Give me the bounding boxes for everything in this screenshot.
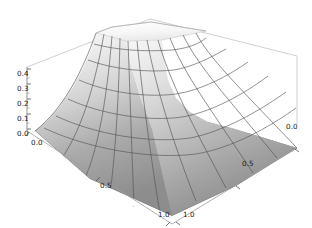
- x-tick-label-1.0: 1.0: [158, 211, 170, 218]
- y-tick-label-0.0: 0.0: [286, 123, 298, 130]
- x-tick-label-0.0: 0.0: [31, 139, 43, 146]
- z-tick-label-0.2: 0.2: [17, 100, 29, 107]
- plot-canvas: [0, 0, 312, 228]
- z-tick-label-0.4: 0.4: [17, 70, 29, 77]
- surface-mesh-3d: [35, 22, 297, 216]
- y-tick-label-0.5: 0.5: [242, 160, 254, 167]
- y-tick-label-1.0: 1.0: [183, 211, 195, 218]
- z-tick-label-0.3: 0.3: [17, 85, 29, 92]
- z-tick-label-0.1: 0.1: [17, 115, 29, 122]
- z-tick-label-0.0: 0.0: [17, 130, 29, 137]
- surface-plot-figure: 0.4 0.3 0.2 0.1 0.0 0.0 0.5 1.0 1.0 0.5 …: [0, 0, 312, 228]
- x-tick-label-0.5: 0.5: [100, 182, 112, 189]
